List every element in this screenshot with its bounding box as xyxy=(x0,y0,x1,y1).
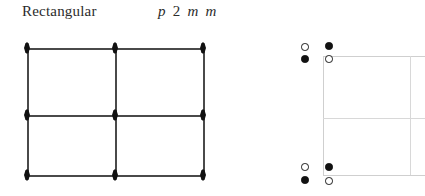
general-position-open xyxy=(301,163,309,171)
general-position-filled xyxy=(301,55,309,63)
symmetry-elements-diagram xyxy=(0,0,250,196)
general-position-filled xyxy=(301,176,309,184)
plane-group-figure: Rectangular p 2 m m xyxy=(0,0,425,196)
general-position-open xyxy=(301,43,309,51)
general-position-filled xyxy=(325,42,333,50)
unit-cell-edge-horizontal xyxy=(323,175,425,176)
general-position-open xyxy=(325,177,333,185)
unit-cell-edge-vertical xyxy=(323,56,324,175)
general-position-open xyxy=(325,55,333,63)
cell-midline-vertical xyxy=(410,56,411,175)
general-positions-diagram xyxy=(250,0,425,196)
general-position-filled xyxy=(325,163,333,171)
